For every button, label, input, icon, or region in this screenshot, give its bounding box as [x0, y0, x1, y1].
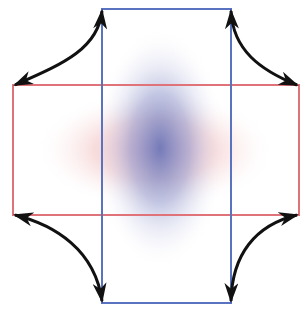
blue-gradient-blob: [0, 0, 308, 310]
diagram-svg: [0, 0, 308, 310]
diagram-canvas: [0, 0, 308, 310]
